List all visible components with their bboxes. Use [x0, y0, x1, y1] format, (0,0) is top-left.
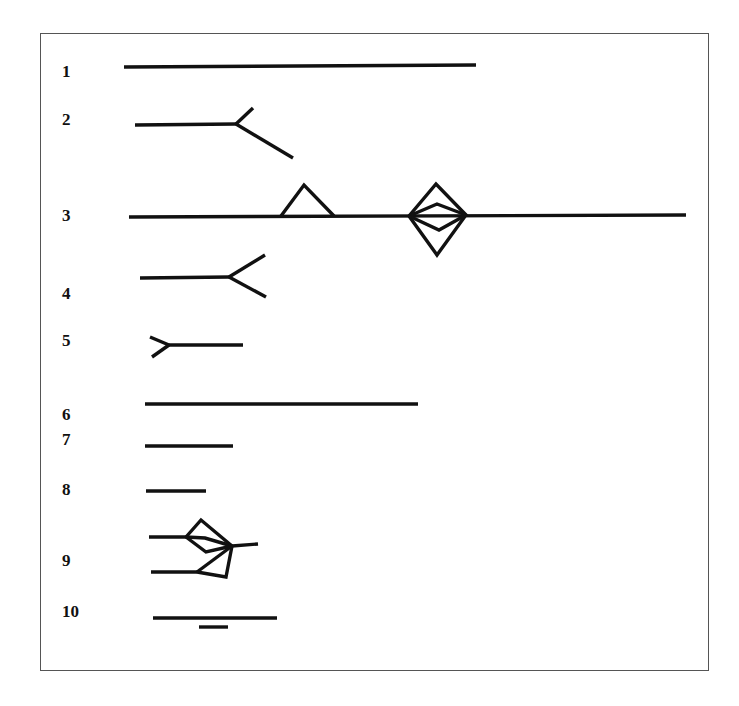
symbol-10-underlined [153, 618, 277, 627]
symbol-drawing [0, 0, 739, 706]
symbol-2-fork [135, 108, 293, 158]
symbol-9-converging [149, 520, 258, 577]
symbol-3-triangle-diamond [129, 184, 686, 255]
symbol-1-line [124, 65, 476, 67]
symbol-5-start-fork [150, 337, 243, 357]
symbol-4-open-fork [140, 255, 266, 297]
